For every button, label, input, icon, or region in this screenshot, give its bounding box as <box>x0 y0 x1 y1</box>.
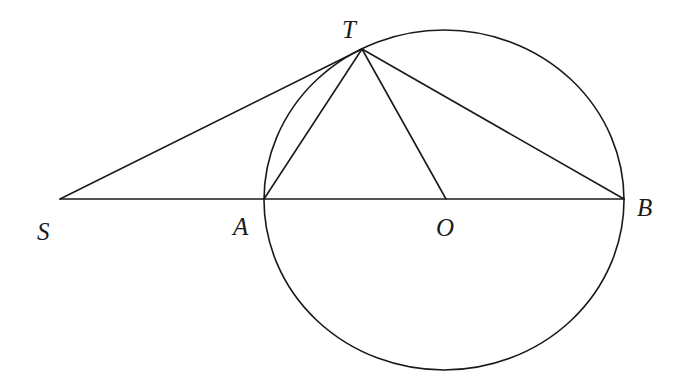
label-o: O <box>436 214 454 241</box>
segment-ta <box>264 49 362 199</box>
geometry-diagram: T S A O B <box>0 0 683 390</box>
label-b: B <box>637 194 652 221</box>
label-s: S <box>37 218 50 245</box>
circle-o <box>264 30 624 370</box>
segment-st-tangent <box>60 49 362 199</box>
label-t: T <box>342 16 358 43</box>
segment-to <box>362 49 446 199</box>
segment-tb <box>362 49 624 199</box>
label-a: A <box>231 213 249 240</box>
